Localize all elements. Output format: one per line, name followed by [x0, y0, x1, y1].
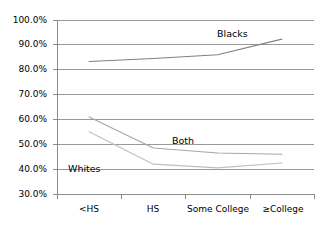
chart-plot-area [0, 0, 322, 234]
line-chart: 100.0% 90.0% 80.0% 70.0% 60.0% 50.0% 40.… [0, 0, 322, 234]
y-tick-label-100: 100.0% [0, 16, 47, 25]
y-tick-label-60: 60.0% [0, 115, 47, 124]
x-tick-label-ge-college: ≥College [252, 205, 314, 214]
x-tick-label-hs: HS [133, 205, 173, 214]
series-line-blacks [89, 39, 282, 61]
gridlines [57, 20, 314, 169]
x-tick-label-some-college: Some College [180, 205, 256, 214]
y-tick-label-90: 90.0% [0, 40, 47, 49]
x-tick-label-lt-hs: <HS [69, 205, 109, 214]
y-tick-label-40: 40.0% [0, 165, 47, 174]
y-tick-label-70: 70.0% [0, 90, 47, 99]
y-tick-marks [53, 20, 57, 194]
x-tick-marks [57, 194, 314, 199]
series-label-blacks: Blacks [217, 29, 248, 39]
series-label-both: Both [172, 136, 194, 146]
y-tick-label-50: 50.0% [0, 140, 47, 149]
y-tick-label-80: 80.0% [0, 65, 47, 74]
series-label-whites: Whites [68, 164, 101, 174]
y-tick-label-30: 30.0% [0, 190, 47, 199]
